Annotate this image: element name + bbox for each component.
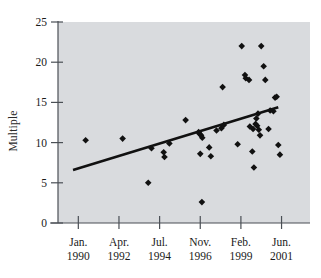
y-tick-label: 0 [41, 217, 47, 229]
y-tick-label: 5 [41, 177, 47, 189]
x-tick-label-year: 1999 [229, 250, 252, 262]
x-tick-label-year: 1992 [107, 250, 130, 262]
y-tick-label: 25 [36, 16, 48, 28]
x-tick-label-month: Jun. [272, 236, 291, 248]
x-tick-label-month: Feb. [231, 236, 251, 248]
scatter-chart-figure: Multiple 0510152025 Jan.1990Apr.1992Jul.… [0, 0, 321, 278]
y-tick-label: 20 [36, 56, 48, 68]
y-tick-label: 10 [36, 137, 48, 149]
x-tick-label-month: Jul. [151, 236, 167, 248]
x-tick-label-month: Apr. [109, 236, 129, 249]
x-axis-labels-group: Jan.1990Apr.1992Jul.1994Nov.1996Feb.1999… [67, 236, 293, 262]
plot-canvas: 0510152025 Jan.1990Apr.1992Jul.1994Nov.1… [0, 0, 321, 278]
plot-area-background [58, 22, 310, 223]
x-tick-label-year: 2001 [270, 250, 293, 262]
x-tick-label-month: Jan. [69, 236, 87, 248]
x-tick-label-year: 1990 [67, 250, 90, 262]
x-tick-label-year: 1994 [148, 250, 171, 262]
x-tick-label-year: 1996 [189, 250, 212, 262]
y-tick-label: 15 [36, 96, 48, 108]
x-tick-label-month: Nov. [189, 236, 211, 248]
plot-background-group [58, 22, 310, 223]
